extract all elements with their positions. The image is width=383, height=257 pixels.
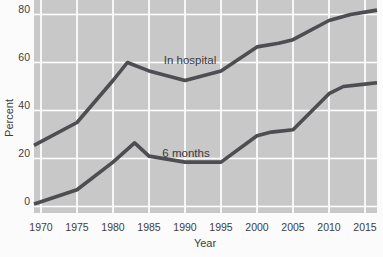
x-tick-label: 1970 xyxy=(29,221,53,233)
x-tick-label: 2000 xyxy=(245,221,269,233)
x-tick-label: 1990 xyxy=(173,221,197,233)
survival-percent-line-chart: 1970197519801985199019952000200520102015… xyxy=(0,0,383,257)
y-tick-label: 60 xyxy=(18,51,30,63)
plot-layer: 1970197519801985199019952000200520102015… xyxy=(18,0,377,233)
x-tick-label: 1975 xyxy=(65,221,89,233)
series-label-6-months: 6 months xyxy=(162,147,210,159)
chart-canvas: 1970197519801985199019952000200520102015… xyxy=(0,0,383,257)
y-tick-label: 0 xyxy=(24,195,30,207)
x-tick-label: 2015 xyxy=(353,221,377,233)
x-tick-label: 1995 xyxy=(209,221,233,233)
y-tick-label: 20 xyxy=(18,147,30,159)
x-tick-label: 1985 xyxy=(137,221,161,233)
y-tick-label: 40 xyxy=(18,99,30,111)
x-tick-label: 2010 xyxy=(317,221,341,233)
x-tick-label: 2005 xyxy=(281,221,305,233)
x-tick-label: 1980 xyxy=(101,221,125,233)
y-axis-title: Percent xyxy=(3,99,15,137)
x-axis-title: Year xyxy=(194,237,217,249)
y-tick-label: 80 xyxy=(18,3,30,15)
series-label-in-hospital: In hospital xyxy=(164,54,216,66)
